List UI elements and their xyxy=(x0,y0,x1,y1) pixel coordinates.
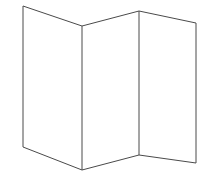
figure-canvas xyxy=(0,0,212,184)
folded-map-icon xyxy=(0,0,212,184)
panel-left xyxy=(23,6,82,170)
panel-right xyxy=(139,11,196,163)
panel-middle xyxy=(82,11,139,170)
